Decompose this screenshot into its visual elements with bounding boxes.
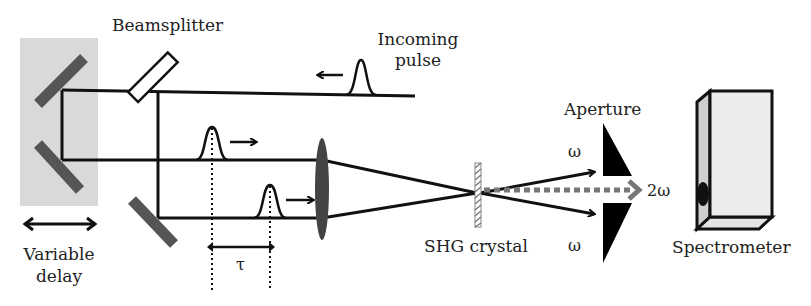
focusing-lens (315, 138, 329, 240)
label-incoming-pulse-line2: pulse (370, 51, 466, 70)
label-spectrometer: Spectrometer (672, 238, 791, 257)
label-tau: τ (236, 255, 245, 274)
aperture (603, 123, 632, 263)
pulse-delayed (196, 127, 256, 290)
label-variable-delay-line2: delay (14, 267, 104, 286)
beamsplitter (128, 52, 177, 101)
aperture-upper (603, 123, 632, 176)
label-beamsplitter: Beamsplitter (112, 16, 223, 35)
pulse-reference (254, 185, 313, 290)
label-incoming-pulse-line1: Incoming (370, 30, 466, 49)
spectrometer (697, 91, 772, 229)
label-shg-crystal: SHG crystal (424, 237, 528, 256)
variable-delay-arrow (25, 218, 95, 230)
label-aperture: Aperture (564, 100, 641, 119)
label-omega-upper: ω (568, 142, 581, 161)
label-two-omega: 2ω (647, 181, 670, 200)
tau-delay-marker (207, 242, 275, 252)
label-omega-lower: ω (568, 236, 581, 255)
aperture-lower (603, 203, 632, 263)
second-harmonic-beam (484, 181, 639, 199)
optical-setup-diagram: Beamsplitter Incoming pulse Aperture ω ω… (0, 0, 811, 306)
label-variable-delay-line1: Variable (14, 245, 104, 264)
incoming-pulse (318, 60, 376, 95)
shg-crystal (475, 163, 481, 227)
fold-mirror (132, 200, 174, 244)
